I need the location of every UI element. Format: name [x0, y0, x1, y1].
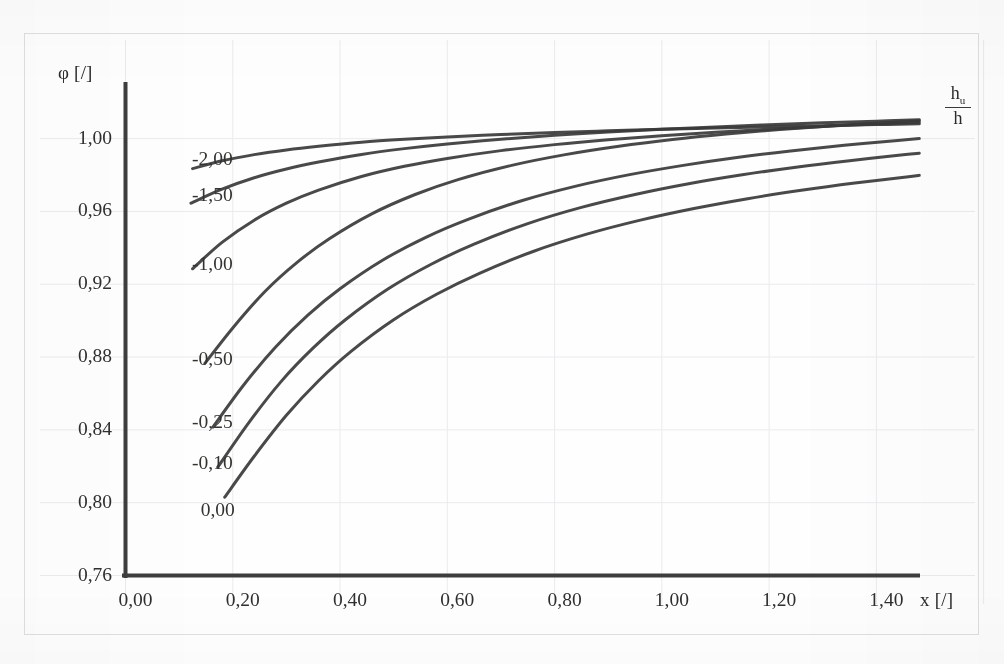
y-tick-label: 0,88 [42, 345, 112, 367]
x-tick-label: 1,20 [744, 589, 814, 611]
parameter-ratio-label: hu h [938, 84, 978, 129]
curve-parameter-label: -0,50 [161, 348, 233, 370]
curve-parameter-label: -0,10 [161, 452, 233, 474]
curve-line [218, 153, 920, 467]
chart-page: φ [/] x [/] hu h 0,760,800,840,880,920,9… [0, 0, 1004, 664]
curve-parameter-label: -1,50 [161, 184, 233, 206]
x-tick-label: 0,60 [422, 589, 492, 611]
ratio-denominator: h [938, 109, 978, 128]
curve-parameter-label: 0,00 [163, 499, 235, 521]
y-tick-label: 0,76 [42, 564, 112, 586]
y-tick-label: 0,80 [42, 491, 112, 513]
x-tick-label: 1,00 [637, 589, 707, 611]
curve-parameter-label: -2,00 [161, 148, 233, 170]
y-tick-label: 0,92 [42, 272, 112, 294]
y-tick-label: 0,84 [42, 418, 112, 440]
y-axis-title: φ [/] [58, 62, 93, 84]
x-tick-label: 0,40 [315, 589, 385, 611]
ratio-numerator-subscript: u [960, 94, 966, 106]
ratio-numerator: hu [938, 84, 978, 106]
curve-line [213, 139, 919, 428]
y-tick-label: 1,00 [42, 127, 112, 149]
curve-parameter-label: -0,25 [161, 411, 233, 433]
y-tick-label: 0,96 [42, 199, 112, 221]
curve-line [193, 122, 920, 269]
data-curves [191, 120, 919, 497]
curve-parameter-label: -1,00 [161, 253, 233, 275]
x-axis-title: x [/] [920, 589, 953, 611]
x-tick-label: 0,80 [530, 589, 600, 611]
x-tick-label: 0,00 [101, 589, 171, 611]
x-tick-label: 0,20 [208, 589, 278, 611]
curve-line [193, 124, 920, 169]
curve-line [225, 175, 920, 497]
x-tick-label: 1,40 [851, 589, 921, 611]
plot-area [0, 0, 1004, 664]
